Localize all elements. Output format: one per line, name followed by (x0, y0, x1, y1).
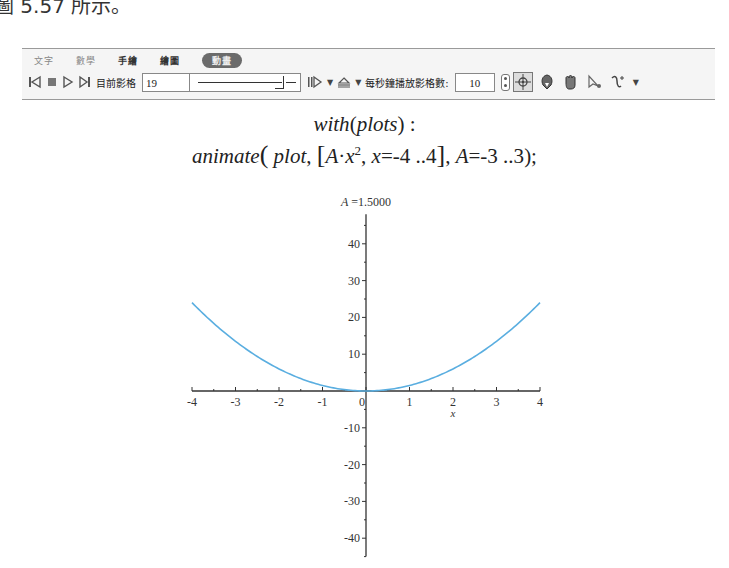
y-tick-label: 20 (348, 310, 360, 324)
x-tick-label: 3 (494, 395, 500, 409)
y-tick-label: 30 (348, 274, 360, 288)
x-tick-label: 1 (407, 395, 413, 409)
x-tick-label: 4 (537, 395, 543, 409)
x-tick-label: -2 (274, 395, 284, 409)
title-variable: A (340, 195, 351, 209)
title-value: =1.5000 (351, 195, 391, 209)
y-tick-label: -40 (344, 531, 360, 545)
y-tick-label: 10 (348, 347, 360, 361)
x-tick-label: -1 (318, 395, 328, 409)
y-tick-label: -20 (344, 458, 360, 472)
y-tick-label: -30 (344, 494, 360, 508)
animation-plot[interactable]: -4-3-2-101234-40-30-20-1010203040xA =1.5… (0, 0, 729, 568)
x-tick-label: -4 (187, 395, 197, 409)
y-tick-label: 40 (348, 237, 360, 251)
y-tick-label: -10 (344, 421, 360, 435)
plot-title: A =1.5000 (340, 195, 391, 209)
x-tick-label: 0 (359, 395, 365, 409)
x-tick-label: -3 (231, 395, 241, 409)
x-axis-label: x (450, 407, 456, 419)
